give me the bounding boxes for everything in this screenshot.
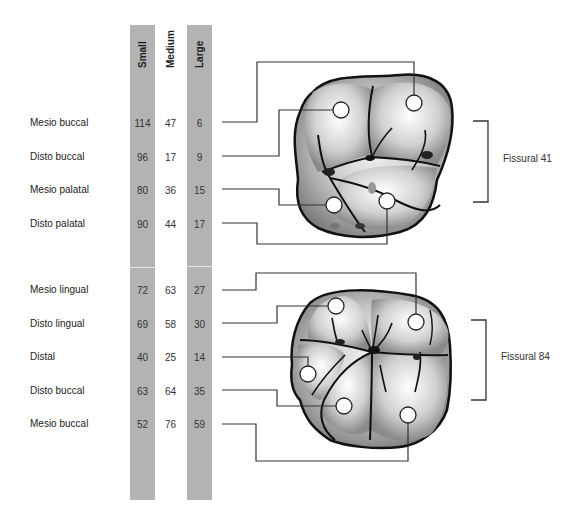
pit: [365, 155, 375, 161]
pit: [413, 354, 421, 360]
fissural-bracket-84: [471, 320, 486, 400]
stain: [368, 182, 376, 194]
site-marker-mesio-palatal: [326, 197, 342, 213]
upper-molar-illustration: [295, 75, 453, 237]
site-marker-distal: [300, 366, 316, 382]
site-marker-disto-palatal: [379, 193, 395, 209]
stain: [330, 223, 340, 229]
lower-molar-illustration: [291, 290, 451, 448]
site-marker-disto-lingual: [408, 314, 424, 330]
pit: [421, 151, 433, 159]
cusp-disto-buccal: [369, 83, 450, 165]
fissural-bracket-41: [473, 121, 488, 202]
site-marker-disto-buccal: [406, 95, 422, 111]
pit: [323, 168, 335, 176]
cusp-mesio-buccal: [370, 352, 447, 440]
pit: [355, 223, 365, 229]
site-marker-mesio-buccal: [400, 407, 416, 423]
site-marker-mesio-lingual: [328, 298, 344, 314]
pit: [335, 339, 345, 345]
site-marker-mesio-buccal: [333, 102, 349, 118]
site-marker-disto-buccal: [336, 398, 352, 414]
pit: [368, 346, 380, 354]
tooth-diagram: [0, 0, 578, 526]
